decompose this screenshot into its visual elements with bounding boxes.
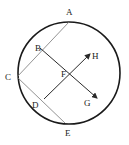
label-H: H	[92, 51, 99, 61]
label-F: F	[61, 69, 66, 79]
arrow-DH	[44, 54, 90, 99]
label-E: E	[65, 128, 71, 138]
label-A: A	[66, 7, 73, 17]
label-B: B	[35, 43, 41, 53]
label-C: C	[5, 72, 11, 82]
label-D: D	[32, 100, 39, 110]
label-G: G	[84, 98, 91, 108]
geometry-diagram: A B C D E F G H	[0, 0, 129, 145]
